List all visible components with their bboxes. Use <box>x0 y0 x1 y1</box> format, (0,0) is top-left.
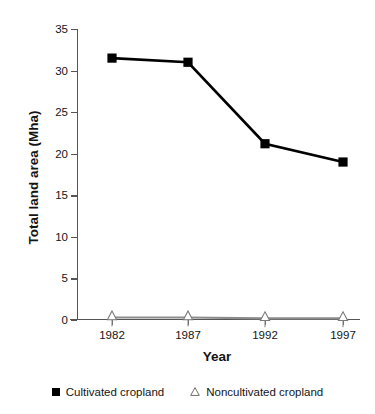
open-triangle-icon <box>190 386 200 398</box>
data-point-marker <box>183 311 192 320</box>
series-line <box>112 318 343 319</box>
x-axis-title: Year <box>77 349 357 364</box>
series-line <box>112 58 343 162</box>
y-tick-label: 35 <box>55 23 68 35</box>
y-tick-label: 20 <box>55 148 68 160</box>
y-axis-title: Total land area (Mha) <box>26 88 41 268</box>
y-tick-label: 10 <box>55 231 68 243</box>
filled-square-icon <box>52 388 60 396</box>
plot-area: 05101520253035 1982198719921997 <box>77 29 360 320</box>
y-tick-label: 5 <box>62 272 68 284</box>
data-point-marker <box>107 311 116 320</box>
data-point-marker <box>183 58 192 67</box>
data-point-marker <box>260 139 269 148</box>
y-tick-label: 25 <box>55 106 68 118</box>
y-tick-label: 30 <box>55 65 68 77</box>
y-tick-label: 15 <box>55 189 68 201</box>
y-tick-mark <box>71 320 77 321</box>
x-tick-label: 1997 <box>330 329 356 341</box>
x-tick-label: 1992 <box>252 329 278 341</box>
data-point-marker <box>107 54 116 63</box>
x-tick-label: 1982 <box>99 329 125 341</box>
data-point-marker <box>260 312 269 321</box>
chart-figure: Total land area (Mha) 05101520253035 198… <box>0 0 375 414</box>
legend-label-cultivated: Cultivated cropland <box>66 386 164 398</box>
legend-label-noncultivated: Noncultivated cropland <box>206 386 323 398</box>
x-tick-label: 1987 <box>175 329 201 341</box>
chart-legend: Cultivated cropland Noncultivated cropla… <box>0 386 375 398</box>
y-tick-label: 0 <box>62 314 68 326</box>
data-point-marker <box>338 312 347 321</box>
legend-item-cultivated: Cultivated cropland <box>52 386 164 398</box>
data-point-marker <box>338 157 347 166</box>
legend-item-noncultivated: Noncultivated cropland <box>190 386 323 398</box>
series-layer <box>77 29 360 320</box>
